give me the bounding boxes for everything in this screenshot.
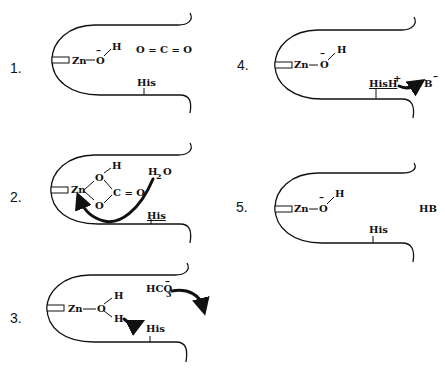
zinc-atom: Zn (68, 303, 83, 314)
histidine-residue: His (137, 77, 156, 88)
negative-charge: – (96, 44, 101, 55)
hydrogen-atom: H (112, 160, 121, 171)
panel-step-5: 5. Zn O – H HB His (236, 163, 437, 262)
proton-transfer-arrow (399, 84, 418, 88)
panel-step-1: 1. Zn O – H O = C = O His (10, 13, 192, 113)
water-oxygen: O (97, 303, 106, 314)
hydrogen-top: H (114, 290, 123, 301)
step-label: 1. (10, 60, 22, 76)
o-h-bond (104, 168, 111, 173)
o-h-bottom-bond (104, 311, 112, 317)
panel-step-3: 3. Zn O H H His HCO 3 – (10, 263, 203, 362)
step-label: 5. (236, 199, 248, 215)
zinc-anchor-bar (275, 206, 292, 212)
conjugate-acid: HB (419, 203, 437, 214)
panel-step-2: 2. Zn O O H C = O H 2 O His (10, 143, 191, 243)
zinc-atom: Zn (294, 203, 309, 214)
carbon-dioxide: O = C = O (136, 44, 192, 55)
proton-shuttle-arrow (124, 319, 137, 325)
histidine-residue: His (369, 224, 388, 235)
carbonyl-group: C = O (113, 187, 145, 198)
hydrogen-atom: H (335, 188, 344, 199)
negative-charge: – (319, 191, 324, 202)
histidine-residue: His (147, 210, 166, 221)
base-negative-charge: – (433, 70, 438, 81)
hydroxide-oxygen: O (319, 203, 328, 214)
water-subscript: 2 (156, 171, 162, 181)
oxygen-bottom: O (95, 200, 104, 211)
hydrogen-bottom: H (114, 313, 123, 324)
panel-step-4: 4. Zn O – H HisH + B – (237, 17, 438, 118)
oxygen-top: O (95, 172, 104, 183)
mechanism-diagram: 1. Zn O – H O = C = O His 4. Zn O – H Hi… (0, 0, 445, 371)
hydrogen-atom: H (337, 44, 346, 55)
hydroxide-oxygen: O (320, 59, 329, 70)
nucleophilic-attack-arrow (80, 179, 153, 222)
zinc-atom: Zn (294, 59, 309, 70)
zinc-anchor-bar (51, 187, 68, 193)
base: B (424, 78, 432, 89)
o-c-top-bond (104, 180, 112, 189)
o-c-bottom-bond (104, 195, 112, 203)
zinc-anchor-bar (47, 305, 64, 311)
o-h-bond (328, 53, 335, 60)
step-label: 3. (10, 310, 22, 326)
negative-charge: – (320, 47, 325, 58)
zn-o-bottom-bond (84, 191, 94, 200)
hydrogen-atom: H (112, 41, 121, 52)
step-label: 4. (237, 57, 249, 73)
step-label: 2. (10, 189, 22, 205)
water-o: O (163, 166, 172, 177)
bicarbonate-charge: – (165, 275, 170, 286)
positive-charge: + (393, 73, 401, 84)
histidine-residue: His (146, 323, 165, 334)
o-h-bond (327, 197, 334, 204)
o-h-bond (104, 49, 111, 56)
hydroxide-oxygen: O (96, 55, 105, 66)
product-release-arrow (172, 290, 203, 307)
zinc-anchor-bar (275, 62, 292, 68)
o-h-top-bond (104, 298, 112, 304)
zinc-anchor-bar (52, 57, 69, 63)
zinc-atom: Zn (72, 55, 87, 66)
